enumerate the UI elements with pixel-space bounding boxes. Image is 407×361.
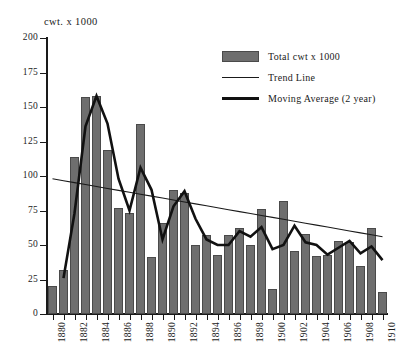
y-axis-tick-label: 200 xyxy=(23,33,38,43)
y-axis-tick xyxy=(40,314,47,315)
x-axis-tick-label: 1898 xyxy=(255,322,265,342)
legend-label-moving-average: Moving Average (2 year) xyxy=(268,94,376,104)
x-axis-tick xyxy=(350,315,351,320)
x-axis-tick xyxy=(372,315,373,320)
x-axis-tick xyxy=(295,315,296,320)
x-axis-tick xyxy=(53,315,54,320)
y-axis-title: cwt. x 1000 xyxy=(44,16,98,27)
x-axis-tick xyxy=(306,315,307,320)
x-axis-tick xyxy=(152,315,153,320)
x-axis-tick xyxy=(64,315,65,320)
y-axis-tick-label: 150 xyxy=(23,102,38,112)
x-axis-tick-label: 1900 xyxy=(277,322,287,342)
chart-figure: cwt. x 1000 0255075100125150175200 18801… xyxy=(0,0,407,361)
x-axis-tick xyxy=(361,315,362,320)
x-axis-tick xyxy=(75,315,76,320)
y-axis-tick-label: 125 xyxy=(23,137,38,147)
y-axis-tick-label: 175 xyxy=(23,68,38,78)
x-axis-tick xyxy=(97,315,98,320)
legend-item-trend: Trend Line xyxy=(222,67,376,88)
x-axis-tick xyxy=(262,315,263,320)
x-axis-tick xyxy=(130,315,131,320)
legend-item-moving-average: Moving Average (2 year) xyxy=(222,88,376,109)
y-axis-tick-label: 100 xyxy=(23,171,38,181)
x-axis-tick-label: 1910 xyxy=(387,322,397,342)
x-axis-tick xyxy=(284,315,285,320)
x-axis-tick-label: 1888 xyxy=(145,322,155,342)
y-axis-tick xyxy=(40,280,47,281)
x-axis-tick xyxy=(119,315,120,320)
x-axis-tick xyxy=(317,315,318,320)
x-axis-tick-label: 1880 xyxy=(57,322,67,342)
y-axis-tick-label: 50 xyxy=(28,240,38,250)
y-axis-tick xyxy=(40,142,47,143)
legend-item-bars: Total cwt x 1000 xyxy=(222,46,376,67)
x-axis-tick-label: 1894 xyxy=(211,322,221,342)
x-axis-tick-label: 1882 xyxy=(79,322,89,342)
x-axis-tick-label: 1892 xyxy=(189,322,199,342)
y-axis-tick xyxy=(40,38,47,39)
x-axis-tick xyxy=(196,315,197,320)
x-axis-tick xyxy=(141,315,142,320)
x-axis-tick xyxy=(163,315,164,320)
legend-swatch-icon xyxy=(222,51,259,62)
y-axis-tick-label: 75 xyxy=(28,206,38,216)
x-axis-tick xyxy=(207,315,208,320)
trend-line xyxy=(53,179,383,237)
legend-thin-line-icon xyxy=(222,72,259,83)
y-axis-tick xyxy=(40,176,47,177)
y-axis-tick-label: 0 xyxy=(33,309,38,319)
x-axis-tick xyxy=(229,315,230,320)
x-axis-tick-label: 1902 xyxy=(299,322,309,342)
x-axis-tick xyxy=(185,315,186,320)
y-axis-tick xyxy=(40,245,47,246)
x-axis-tick-label: 1884 xyxy=(101,322,111,342)
chart-legend: Total cwt x 1000 Trend Line Moving Avera… xyxy=(222,46,376,109)
moving-average-line xyxy=(64,96,383,278)
legend-label-bars: Total cwt x 1000 xyxy=(268,52,340,62)
x-axis-tick xyxy=(273,315,274,320)
y-axis-tick xyxy=(40,73,47,74)
x-axis-tick xyxy=(328,315,329,320)
x-axis-tick xyxy=(174,315,175,320)
x-axis-tick xyxy=(240,315,241,320)
x-axis-tick xyxy=(218,315,219,320)
x-axis-tick-label: 1896 xyxy=(233,322,243,342)
y-axis-tick xyxy=(40,211,47,212)
legend-thick-line-icon xyxy=(222,93,259,104)
x-axis-labels: 1880188218841886188818901892189418961898… xyxy=(47,322,388,360)
x-axis-tick xyxy=(339,315,340,320)
x-axis-tick-label: 1906 xyxy=(343,322,353,342)
x-axis-tick-label: 1908 xyxy=(365,322,375,342)
x-axis-tick-label: 1886 xyxy=(123,322,133,342)
x-axis-tick-label: 1904 xyxy=(321,322,331,342)
y-axis-tick-label: 25 xyxy=(28,275,38,285)
y-axis-tick xyxy=(40,107,47,108)
legend-label-trend: Trend Line xyxy=(268,73,315,83)
x-axis-tick xyxy=(86,315,87,320)
x-axis-tick xyxy=(108,315,109,320)
x-axis-tick-label: 1890 xyxy=(167,322,177,342)
x-axis-tick xyxy=(383,315,384,320)
x-axis-tick xyxy=(251,315,252,320)
